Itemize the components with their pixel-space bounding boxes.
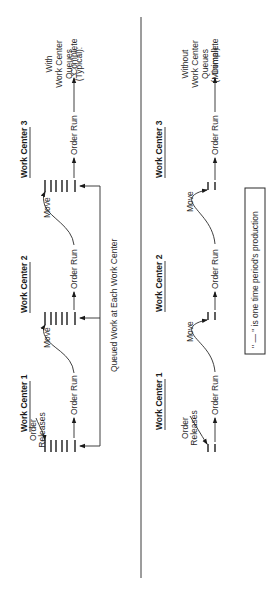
legend-text: " — " is one time period's production — [250, 211, 260, 348]
work-center-1-title: Work Center 1 — [154, 372, 164, 430]
move-arrow — [192, 320, 215, 372]
move-arrow — [192, 190, 215, 244]
move-label: Move — [185, 191, 195, 212]
queued-work-bracket — [80, 186, 100, 446]
queue-stack-wc3 — [45, 180, 75, 192]
order-run-label: Order Run — [69, 375, 79, 415]
queue-stack-wc3 — [208, 182, 215, 190]
section-label-line: Queues — [200, 49, 210, 79]
queued-work-label: Queued Work at Each Work Center — [109, 238, 119, 372]
work-center-2-title: Work Center 2 — [19, 255, 29, 313]
queue-stack-wc1 — [45, 440, 75, 452]
work-center-3-title: Work Center 3 — [19, 120, 29, 178]
section-label-line: Work Center — [190, 40, 200, 88]
work-center-1-title: Work Center 1 — [19, 374, 29, 432]
section-label-line: Without — [180, 49, 190, 78]
section-with-queues: With Work Center Queues (Typical): Order… — [19, 38, 119, 452]
work-center-queue-diagram: With Work Center Queues (Typical): Order… — [0, 0, 280, 598]
section-without-queues: Without Work Center Queues (Minimal): Or… — [154, 38, 265, 452]
work-center-2-title: Work Center 2 — [154, 254, 164, 312]
order-run-label: Order Run — [210, 249, 220, 289]
move-label: Move — [185, 321, 195, 342]
section-label-line: Work Center — [54, 40, 64, 88]
queue-stack-wc2 — [208, 312, 215, 320]
complete-label: Complete — [210, 38, 220, 75]
order-run-label: Order Run — [69, 249, 79, 289]
queue-stack-wc2 — [45, 312, 75, 325]
order-run-label: Order Run — [210, 115, 220, 155]
order-run-label: Order Run — [69, 115, 79, 155]
order-run-label: Order Run — [210, 375, 220, 415]
work-center-3-title: Work Center 3 — [154, 120, 164, 178]
section-label-line: With — [44, 55, 54, 72]
complete-label: Complete — [69, 38, 79, 75]
queue-stack-wc1 — [208, 444, 215, 452]
